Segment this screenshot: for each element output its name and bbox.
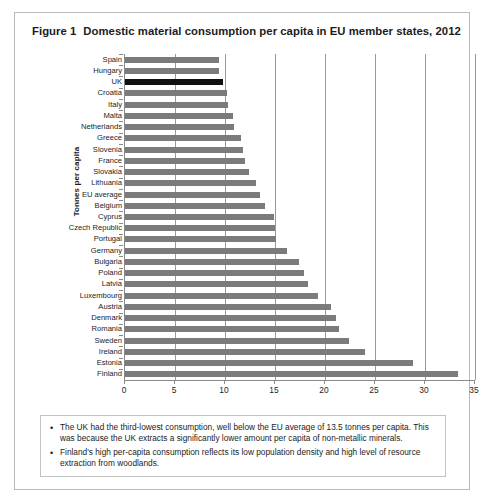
bar-bulgaria bbox=[125, 259, 299, 265]
y-axis-tick bbox=[119, 54, 123, 55]
y-axis-tick bbox=[119, 121, 123, 122]
bar-belgium bbox=[125, 203, 265, 209]
x-axis-tick-label: 35 bbox=[469, 385, 478, 395]
y-axis-tick bbox=[119, 358, 123, 359]
bar-poland bbox=[125, 270, 304, 276]
category-label-estonia: Estonia bbox=[43, 359, 122, 367]
x-axis-tick-label: 25 bbox=[369, 385, 378, 395]
y-axis-tick bbox=[119, 99, 123, 100]
figure-number: Figure 1 bbox=[32, 25, 76, 37]
category-label-poland: Poland bbox=[43, 269, 122, 277]
y-axis-tick bbox=[119, 76, 123, 77]
y-axis-tick bbox=[119, 234, 123, 235]
x-axis-tick bbox=[424, 380, 425, 384]
bar-croatia bbox=[125, 90, 227, 96]
y-axis-tick bbox=[119, 369, 123, 370]
y-axis-tick bbox=[119, 133, 123, 134]
x-axis-tick-label: 20 bbox=[319, 385, 328, 395]
y-axis-tick bbox=[119, 110, 123, 111]
bar-greece bbox=[125, 135, 241, 141]
category-label-portugal: Portugal bbox=[43, 235, 122, 243]
note-item: •The UK had the third-lowest consumption… bbox=[49, 422, 437, 444]
x-axis-tick bbox=[274, 380, 275, 384]
category-label-netherlands: Netherlands bbox=[43, 123, 122, 131]
bar-romania bbox=[125, 326, 339, 332]
y-axis-tick bbox=[119, 65, 123, 66]
figure-title: Figure 1Domestic material consumption pe… bbox=[32, 25, 461, 37]
bar-sweden bbox=[125, 338, 349, 344]
category-label-slovenia: Slovenia bbox=[43, 146, 122, 154]
x-axis-tick-label: 15 bbox=[269, 385, 278, 395]
category-label-belgium: Belgium bbox=[43, 202, 122, 210]
bar-italy bbox=[125, 102, 228, 108]
bar-denmark bbox=[125, 315, 336, 321]
category-label-latvia: Latvia bbox=[43, 280, 122, 288]
bar-spain bbox=[125, 57, 219, 63]
category-label-italy: Italy bbox=[43, 101, 122, 109]
bar-estonia bbox=[125, 360, 413, 366]
bar-netherlands bbox=[125, 124, 234, 130]
category-label-romania: Romania bbox=[43, 325, 122, 333]
y-axis-tick bbox=[119, 290, 123, 291]
x-axis-tick-label: 10 bbox=[219, 385, 228, 395]
category-label-eu-average: EU average bbox=[43, 191, 122, 199]
gridline bbox=[375, 54, 376, 380]
gridline bbox=[475, 54, 476, 380]
category-label-ireland: Ireland bbox=[43, 348, 122, 356]
note-item: •Finland's high per-capita consumption r… bbox=[49, 447, 437, 469]
note-text: The UK had the third-lowest consumption,… bbox=[60, 422, 429, 443]
y-axis-tick bbox=[119, 155, 123, 156]
category-label-uk: UK bbox=[43, 78, 122, 86]
bar-czech-republic bbox=[125, 225, 275, 231]
figure-frame: Figure 1Domestic material consumption pe… bbox=[14, 12, 470, 490]
y-axis-tick bbox=[119, 178, 123, 179]
bar-austria bbox=[125, 304, 331, 310]
category-label-finland: Finland bbox=[43, 370, 122, 378]
y-axis-tick bbox=[119, 211, 123, 212]
y-axis-tick bbox=[119, 144, 123, 145]
x-axis-tick-label: 5 bbox=[172, 385, 177, 395]
category-label-malta: Malta bbox=[43, 112, 122, 120]
y-axis-tick bbox=[119, 268, 123, 269]
y-axis-tick bbox=[119, 200, 123, 201]
category-label-sweden: Sweden bbox=[43, 337, 122, 345]
gridline bbox=[425, 54, 426, 380]
bar-eu-average bbox=[125, 192, 260, 198]
category-label-cyprus: Cyprus bbox=[43, 213, 122, 221]
y-axis-tick bbox=[119, 256, 123, 257]
category-label-spain: Spain bbox=[43, 56, 122, 64]
category-label-slovakia: Slovakia bbox=[43, 168, 122, 176]
bar-ireland bbox=[125, 349, 365, 355]
bar-slovakia bbox=[125, 169, 249, 175]
x-axis-tick bbox=[124, 380, 125, 384]
y-axis-tick bbox=[119, 313, 123, 314]
category-label-czech-republic: Czech Republic bbox=[43, 224, 122, 232]
category-label-austria: Austria bbox=[43, 303, 122, 311]
y-axis-tick bbox=[119, 279, 123, 280]
category-label-luxembourg: Luxembourg bbox=[43, 292, 122, 300]
bar-luxembourg bbox=[125, 293, 318, 299]
category-label-germany: Germany bbox=[43, 247, 122, 255]
y-axis-tick bbox=[119, 88, 123, 89]
bar-finland bbox=[125, 371, 458, 377]
y-axis-tick bbox=[119, 223, 123, 224]
x-axis-tick bbox=[374, 380, 375, 384]
bar-portugal bbox=[125, 236, 276, 242]
chart-area: Tonnes per capita SpainHungaryUKCroatiaI… bbox=[25, 49, 461, 405]
bar-slovenia bbox=[125, 147, 243, 153]
category-label-lithuania: Lithuania bbox=[43, 179, 122, 187]
y-axis-tick bbox=[119, 245, 123, 246]
bullet-icon: • bbox=[50, 447, 53, 459]
y-axis-tick-labels: SpainHungaryUKCroatiaItalyMaltaNetherlan… bbox=[43, 54, 122, 380]
figure-title-text: Domestic material consumption per capita… bbox=[83, 25, 460, 37]
y-axis-tick bbox=[119, 324, 123, 325]
y-axis-tick bbox=[119, 335, 123, 336]
x-axis-tick bbox=[324, 380, 325, 384]
bar-malta bbox=[125, 113, 233, 119]
category-label-bulgaria: Bulgaria bbox=[43, 258, 122, 266]
bar-lithuania bbox=[125, 180, 256, 186]
category-label-croatia: Croatia bbox=[43, 89, 122, 97]
y-axis-tick bbox=[119, 166, 123, 167]
bar-germany bbox=[125, 248, 287, 254]
plot-area bbox=[124, 54, 475, 380]
